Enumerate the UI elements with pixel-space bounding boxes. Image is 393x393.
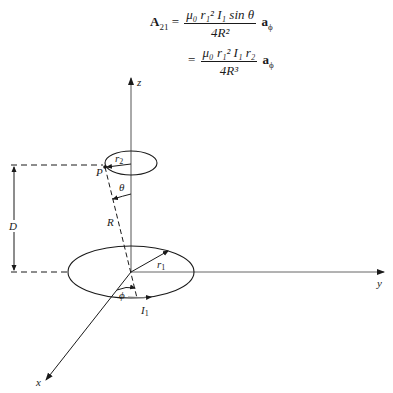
point-p-label: P (95, 166, 103, 178)
r1-label: r1 (157, 258, 165, 272)
d-label: D (8, 220, 17, 232)
y-axis-label: y (376, 277, 382, 289)
theta-label: θ (119, 181, 125, 193)
theta-arc (113, 194, 131, 199)
current-label: I1 (140, 304, 149, 318)
loop-geometry-diagram: z y x r1 I1 ϕ r2 P R θ D (0, 0, 393, 393)
r-distance-label: R (106, 216, 114, 228)
z-axis-label: z (136, 76, 142, 88)
r2-label: r2 (115, 152, 123, 166)
x-axis-label: x (35, 376, 41, 388)
current-arrow (128, 297, 151, 298)
phi-label: ϕ (119, 289, 125, 301)
